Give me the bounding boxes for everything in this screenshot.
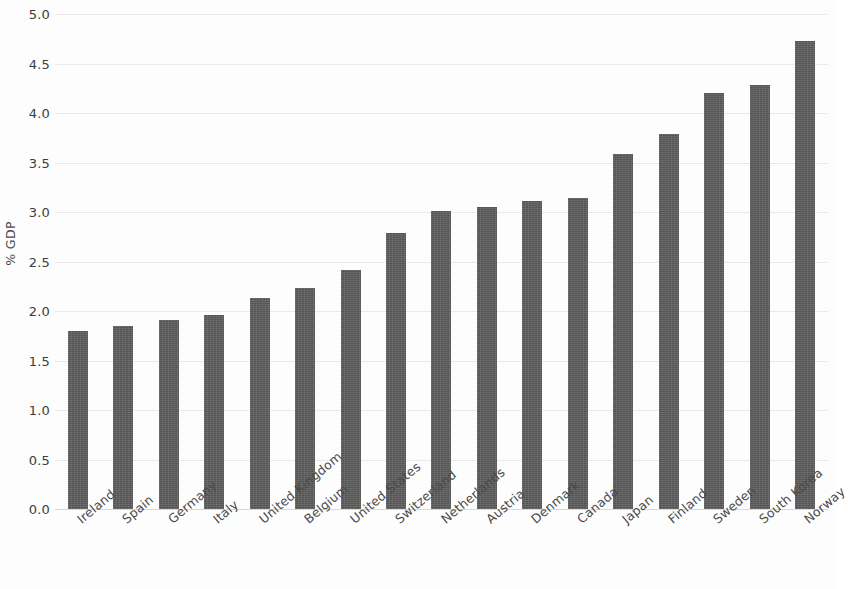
x-axis-tick-labels: IrelandSpainGermanyItalyUnited KingdomBe… [55, 509, 828, 589]
y-axis-tick-label: 1.0 [4, 403, 50, 418]
bar[interactable] [477, 207, 497, 509]
bar[interactable] [341, 270, 361, 509]
bar[interactable] [795, 41, 815, 509]
y-axis-tick-label: 2.0 [4, 304, 50, 319]
bar-slot [100, 14, 145, 509]
bar[interactable] [750, 85, 770, 509]
bar-slot [282, 14, 327, 509]
bar[interactable] [522, 201, 542, 509]
y-axis-tick-label: 3.5 [4, 155, 50, 170]
y-axis-tick-label: 0.5 [4, 452, 50, 467]
bar-slot [373, 14, 418, 509]
bar-slot [510, 14, 555, 509]
y-axis-tick-label: 4.5 [4, 56, 50, 71]
bar-slot [146, 14, 191, 509]
bar-slot [783, 14, 828, 509]
y-axis-tick-label: 3.0 [4, 205, 50, 220]
bar-slot [237, 14, 282, 509]
bar-slot [601, 14, 646, 509]
bar-slot [464, 14, 509, 509]
bar[interactable] [431, 211, 451, 509]
bar-slot [555, 14, 600, 509]
y-axis-tick-label: 2.5 [4, 254, 50, 269]
bar[interactable] [613, 154, 633, 509]
bar[interactable] [659, 134, 679, 509]
y-axis-tick-label: 5.0 [4, 7, 50, 22]
bar[interactable] [704, 93, 724, 509]
bar[interactable] [159, 320, 179, 509]
y-axis-tick-labels: 0.00.51.01.52.02.53.03.54.04.55.0 [0, 14, 50, 509]
y-axis-tick-label: 4.0 [4, 106, 50, 121]
bar-slot [737, 14, 782, 509]
bar-slot [646, 14, 691, 509]
bar[interactable] [250, 298, 270, 509]
bar-slot [419, 14, 464, 509]
bar[interactable] [568, 198, 588, 509]
bar[interactable] [68, 331, 88, 509]
y-axis-tick-label: 1.5 [4, 353, 50, 368]
bar-slot [191, 14, 236, 509]
bar-slot [55, 14, 100, 509]
bar[interactable] [113, 326, 133, 509]
bar-slot [692, 14, 737, 509]
bars-layer [55, 14, 828, 509]
y-axis-tick-label: 0.0 [4, 502, 50, 517]
bar-slot [328, 14, 373, 509]
